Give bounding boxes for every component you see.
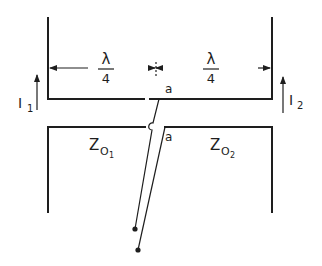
lambda-left: λ [102, 50, 111, 68]
current-i2-symbol: I [289, 92, 293, 108]
current-arrows [37, 75, 283, 113]
transmission-line-diagram: λ 4 λ 4 I 1 I 2 a a Z O 1 Z O 2 [0, 0, 322, 266]
impedance-z01-index: 1 [109, 151, 114, 160]
terminal-dot-1 [132, 226, 137, 231]
impedance-z01-symbol: Z [89, 136, 99, 154]
current-i1-symbol: I [18, 95, 22, 111]
current-i1-subscript: 1 [27, 103, 33, 114]
impedance-z01-sub: O [100, 145, 109, 158]
current-i2-subscript: 2 [297, 100, 303, 111]
four-right: 4 [207, 71, 215, 86]
terminal-dot-2 [135, 247, 140, 252]
impedance-z02-index: 2 [230, 151, 235, 160]
terminal-a-lower: a [165, 130, 172, 144]
lower-conductor [48, 127, 272, 213]
feed-line [132, 99, 165, 253]
terminal-a-upper: a [165, 82, 172, 96]
impedance-z02-sub: O [221, 145, 230, 158]
impedance-z02-symbol: Z [210, 136, 220, 154]
upper-conductor [48, 17, 272, 99]
four-left: 4 [102, 71, 110, 86]
lambda-right: λ [207, 50, 216, 68]
dimension-arrows [50, 62, 270, 76]
